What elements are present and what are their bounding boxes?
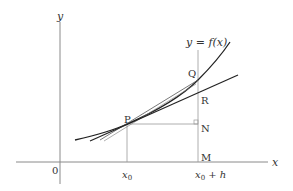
x0h-tick-label: x0 + h: [195, 169, 226, 182]
x0-tick-label: x0: [122, 169, 132, 182]
x-axis-label: x: [272, 156, 279, 169]
point-r-label: R: [201, 95, 209, 106]
point-n-label: N: [201, 123, 210, 134]
point-m-label: M: [201, 152, 211, 163]
y-axis-label: y: [56, 10, 64, 23]
origin-label: 0: [52, 165, 58, 176]
right-angle-marker: [194, 120, 198, 124]
curve-label: y = f(x): [185, 36, 227, 49]
secant-pq: [100, 80, 198, 140]
tangent-line: [90, 75, 238, 141]
point-q-label: Q: [188, 68, 196, 79]
point-p-label: P: [124, 114, 131, 125]
secant-pq-2: [104, 84, 196, 141]
derivative-diagram: y x 0 y = f(x) P Q R N M x0 x0 + h: [0, 0, 293, 191]
